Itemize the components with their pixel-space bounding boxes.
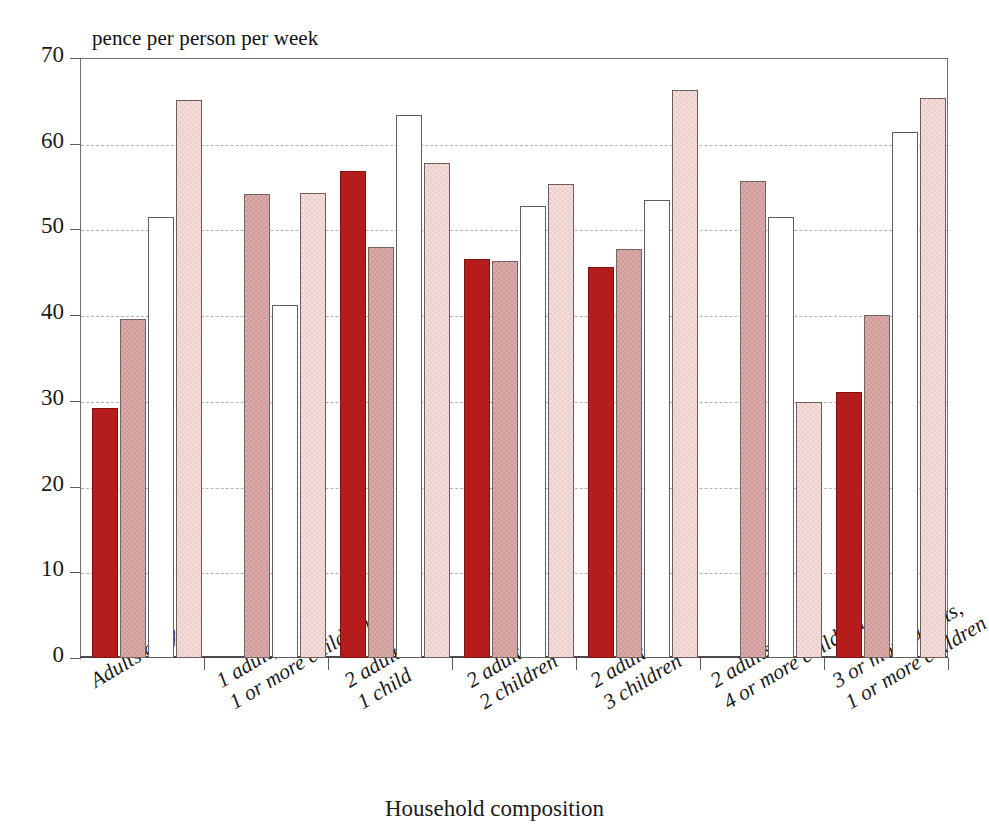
bar (672, 90, 698, 658)
y-axis-tick (70, 487, 81, 488)
bar (300, 193, 326, 658)
x-axis-tick (700, 658, 701, 670)
y-axis-tick-label: 50 (18, 213, 64, 239)
bar (396, 115, 422, 658)
y-axis-tick (70, 572, 81, 573)
bar (796, 402, 822, 658)
bar (244, 194, 270, 658)
bar (520, 206, 546, 658)
bar (368, 247, 394, 658)
y-axis-tick (70, 229, 81, 230)
y-axis-unit-label: pence per person per week (92, 26, 318, 51)
x-axis-title: Household composition (0, 796, 989, 822)
bar (148, 217, 174, 658)
bar (424, 163, 450, 658)
bar (616, 249, 642, 658)
y-axis-tick-label: 20 (18, 471, 64, 497)
bar (120, 319, 146, 658)
y-axis-tick-label: 70 (18, 42, 64, 68)
y-axis-tick (70, 144, 81, 145)
y-axis-tick (70, 401, 81, 402)
x-axis-tick (948, 658, 949, 670)
bar (768, 217, 794, 658)
bar (740, 181, 766, 658)
bar (892, 132, 918, 658)
bars-layer (80, 58, 948, 658)
y-axis-tick (70, 658, 81, 659)
y-axis-tick (70, 315, 81, 316)
y-axis-tick-label: 0 (18, 642, 64, 668)
x-axis-tick (452, 658, 453, 670)
bar (464, 259, 490, 658)
bar (548, 184, 574, 658)
bar (492, 261, 518, 658)
bar (864, 315, 890, 658)
bar (176, 100, 202, 658)
y-axis-tick (70, 58, 81, 59)
y-axis-tick-label: 10 (18, 556, 64, 582)
bar (920, 98, 946, 658)
bar (836, 392, 862, 658)
bar-chart: pence per person per week 70605040302010… (0, 0, 989, 828)
y-axis-tick-label: 40 (18, 299, 64, 325)
x-axis-tick (576, 658, 577, 670)
bar (588, 267, 614, 658)
y-axis-tick-label: 60 (18, 128, 64, 154)
y-axis-tick-label: 30 (18, 385, 64, 411)
bar (644, 200, 670, 658)
bar (340, 171, 366, 658)
x-axis-tick (204, 658, 205, 670)
bar (272, 305, 298, 658)
bar (92, 408, 118, 658)
